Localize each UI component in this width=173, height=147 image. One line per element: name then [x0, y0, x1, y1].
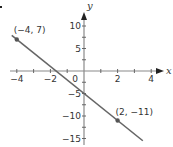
y-tick-label: 5	[75, 44, 81, 54]
x-tick-label: 4	[148, 74, 154, 84]
x-tick-label: 0	[72, 74, 78, 84]
x-axis-label: x	[166, 65, 172, 76]
x-tick-label: 2	[115, 74, 121, 84]
y-tick-label: −15	[62, 134, 81, 144]
y-axis-arrow-icon	[81, 12, 87, 20]
x-tick-label: −2	[44, 74, 57, 84]
y-tick-label: 10	[70, 21, 82, 31]
line-chart: −4−2024105−5−10−15 (−4, 7)(2, −11) x y	[0, 0, 173, 147]
y-tick-label: −10	[62, 111, 81, 121]
data-point-label: (2, −11)	[116, 107, 153, 117]
x-tick-label: −4	[10, 74, 24, 84]
data-point-marker	[15, 37, 19, 41]
data-point-label: (−4, 7)	[14, 25, 46, 35]
data-point-marker	[115, 118, 119, 122]
y-axis-label: y	[86, 0, 93, 11]
x-axis-arrow-icon	[156, 68, 164, 74]
